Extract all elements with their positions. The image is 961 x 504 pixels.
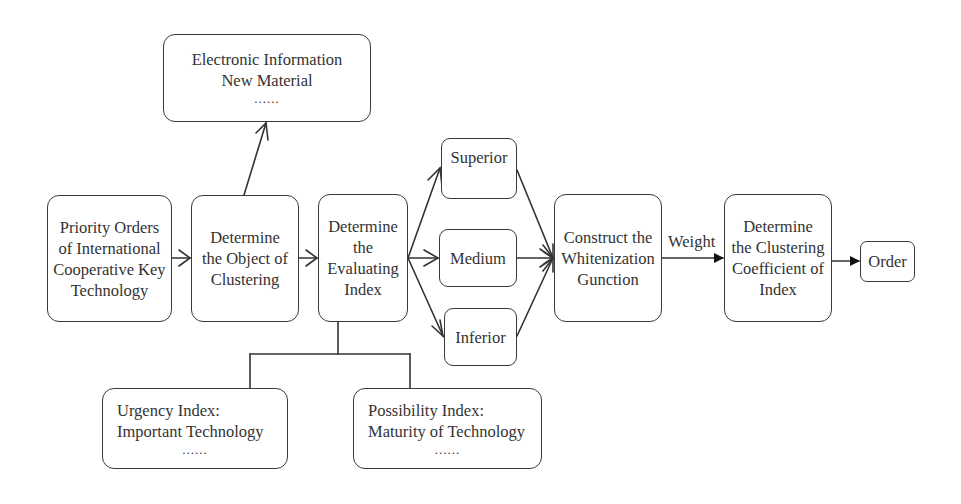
node-text: Evaluating — [327, 258, 398, 279]
node-text: the — [353, 237, 373, 258]
edge-superior-whitenization — [517, 170, 553, 258]
node-text: Whitenization — [561, 248, 654, 269]
node-urgency-index: Urgency Index: Important Technology ....… — [102, 388, 288, 469]
edge-evaluating-inferior — [408, 258, 443, 336]
node-text: Determine — [328, 216, 398, 237]
node-text: of International — [58, 238, 160, 259]
node-text: Maturity of Technology — [368, 421, 525, 442]
node-text: Superior — [451, 147, 508, 168]
node-text: Possibility Index: — [368, 400, 484, 421]
node-text: Construct the — [564, 227, 652, 248]
edge-evaluating-superior — [408, 168, 442, 258]
node-text: Cooperative Key — [53, 259, 165, 280]
node-application-fields: Electronic Information New Material ....… — [163, 34, 371, 122]
node-order: Order — [860, 241, 915, 282]
node-text: Priority Orders — [60, 217, 159, 238]
node-medium: Medium — [439, 229, 517, 287]
node-text: Important Technology — [117, 421, 264, 442]
ellipsis: ...... — [254, 91, 280, 107]
node-whitenization-function: Construct the Whitenization Gunction — [554, 194, 662, 322]
node-text: Coefficient of — [732, 258, 824, 279]
node-text: New Material — [221, 70, 312, 91]
node-text: Electronic Information — [192, 49, 343, 70]
node-text: Index — [759, 279, 797, 300]
node-text: Gunction — [577, 269, 638, 290]
edge-object-evaluating — [299, 250, 317, 266]
node-text: Clustering — [211, 269, 280, 290]
edge-priority-object — [172, 250, 190, 266]
node-text: the Clustering — [731, 237, 824, 258]
edge-object-fields — [244, 123, 268, 195]
node-priority-orders: Priority Orders of International Coopera… — [47, 195, 172, 322]
node-possibility-index: Possibility Index: Maturity of Technolog… — [353, 388, 542, 469]
node-text: Inferior — [455, 327, 505, 348]
node-text: Index — [344, 279, 382, 300]
node-evaluating-index: Determine the Evaluating Index — [318, 194, 408, 322]
edge-label-weight: Weight — [668, 232, 715, 252]
edge-evaluating-indices — [250, 322, 410, 388]
node-text: Medium — [450, 248, 506, 269]
node-text: Technology — [71, 280, 149, 301]
node-text: the Object of — [202, 248, 288, 269]
edge-inferior-whitenization — [517, 258, 553, 336]
ellipsis: ...... — [182, 442, 208, 458]
edge-evaluating-medium — [408, 250, 438, 266]
node-determine-object: Determine the Object of Clustering — [191, 195, 299, 322]
node-clustering-coefficient: Determine the Clustering Coefficient of … — [724, 194, 832, 322]
node-text: Determine — [743, 216, 813, 237]
node-text: Urgency Index: — [117, 400, 220, 421]
node-superior: Superior — [441, 138, 517, 199]
ellipsis: ...... — [435, 442, 461, 458]
node-text: Determine — [210, 227, 280, 248]
node-text: Order — [868, 251, 906, 272]
node-inferior: Inferior — [444, 308, 517, 366]
